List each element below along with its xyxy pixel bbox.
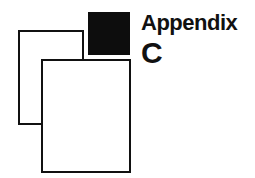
- appendix-letter: C: [141, 38, 163, 68]
- black-square-icon: [88, 12, 130, 55]
- front-page-icon: [41, 59, 131, 173]
- appendix-label: Appendix: [141, 10, 237, 36]
